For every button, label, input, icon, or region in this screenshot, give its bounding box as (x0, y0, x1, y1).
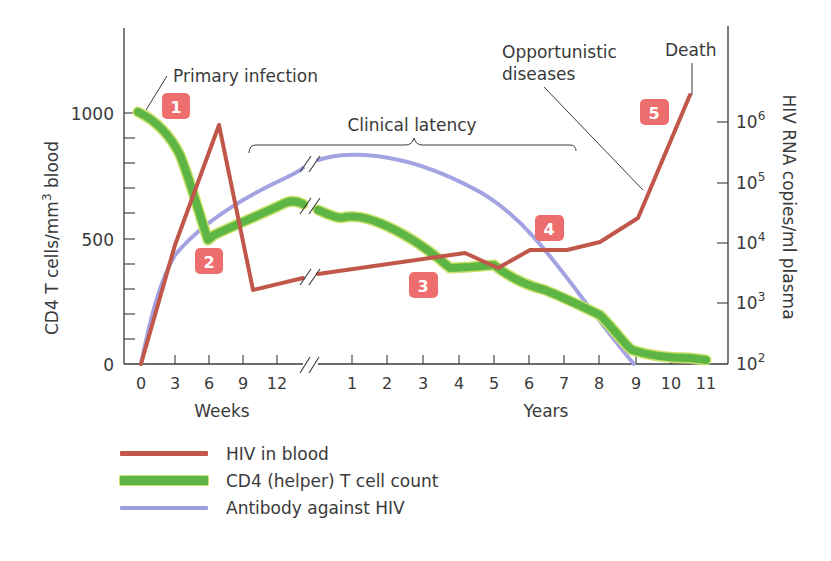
svg-text:5: 5 (489, 374, 499, 393)
badge-5: 5 (640, 99, 669, 125)
svg-text:102: 102 (736, 351, 765, 374)
opportunistic-leader (544, 87, 643, 190)
legend-label-hiv: HIV in blood (226, 444, 329, 464)
x-axis-break-icon (300, 357, 319, 373)
clinical-latency-label: Clinical latency (347, 115, 476, 135)
y-tick-0: 0 (103, 355, 114, 375)
svg-text:103: 103 (736, 290, 765, 313)
chart-legend: HIV in blood CD4 (helper) T cell count A… (120, 440, 438, 521)
death-label: Death (665, 40, 716, 60)
svg-text:9: 9 (238, 374, 248, 393)
svg-text:0: 0 (136, 374, 146, 393)
svg-text:9: 9 (631, 374, 641, 393)
svg-text:3: 3 (418, 374, 428, 393)
svg-text:7: 7 (559, 374, 569, 393)
legend-swatch-antibody (120, 506, 208, 510)
svg-text:1: 1 (170, 98, 181, 117)
legend-item-cd4: CD4 (helper) T cell count (120, 467, 438, 494)
svg-text:10: 10 (661, 374, 681, 393)
svg-text:2: 2 (203, 253, 214, 272)
svg-text:104: 104 (736, 230, 765, 253)
primary-infection-label: Primary infection (173, 66, 318, 86)
legend-label-antibody: Antibody against HIV (226, 498, 405, 518)
badge-1: 1 (162, 93, 190, 119)
svg-text:4: 4 (543, 220, 554, 239)
svg-text:3: 3 (417, 277, 428, 296)
left-y-ticks (124, 113, 135, 339)
badge-2: 2 (195, 248, 223, 274)
svg-text:2: 2 (382, 374, 392, 393)
y-tick-500: 500 (82, 230, 114, 250)
svg-text:6: 6 (524, 374, 534, 393)
svg-text:3: 3 (170, 374, 180, 393)
x-axis-title-weeks: Weeks (194, 401, 250, 421)
svg-text:105: 105 (736, 170, 765, 193)
svg-text:4: 4 (454, 374, 464, 393)
y-axis-title-right: HIV RNA copies/ml plasma (779, 94, 799, 319)
legend-item-antibody: Antibody against HIV (120, 494, 438, 521)
badge-3: 3 (409, 272, 438, 298)
y-tick-1000: 1000 (71, 104, 114, 124)
svg-text:106: 106 (736, 109, 765, 132)
series-break-icon (300, 156, 320, 285)
clinical-latency-brace (249, 138, 576, 153)
right-y-ticks (717, 122, 728, 303)
svg-text:6: 6 (204, 374, 214, 393)
legend-swatch-hiv (120, 451, 208, 456)
y-axis-title-left: CD4 T cells/mm3 blood (40, 141, 62, 335)
right-y-tick-labels: 106 105 104 103 102 (736, 109, 765, 374)
svg-text:1: 1 (347, 374, 357, 393)
legend-swatch-cd4 (120, 476, 208, 485)
badge-4: 4 (535, 215, 564, 241)
svg-text:5: 5 (648, 104, 659, 123)
hiv-progression-chart: 1000 500 0 106 105 104 103 102 0 3 6 9 1… (0, 0, 831, 440)
svg-text:12: 12 (267, 374, 287, 393)
svg-text:8: 8 (594, 374, 604, 393)
legend-label-cd4: CD4 (helper) T cell count (226, 471, 438, 491)
opportunistic-label-line1: Opportunistic (502, 42, 617, 62)
opportunistic-label-line2: diseases (502, 64, 576, 84)
svg-text:11: 11 (696, 374, 716, 393)
legend-item-hiv: HIV in blood (120, 440, 438, 467)
x-tick-labels: 0 3 6 9 12 1 2 3 4 5 6 7 8 9 10 11 (136, 374, 716, 393)
x-axis-title-years: Years (523, 401, 569, 421)
